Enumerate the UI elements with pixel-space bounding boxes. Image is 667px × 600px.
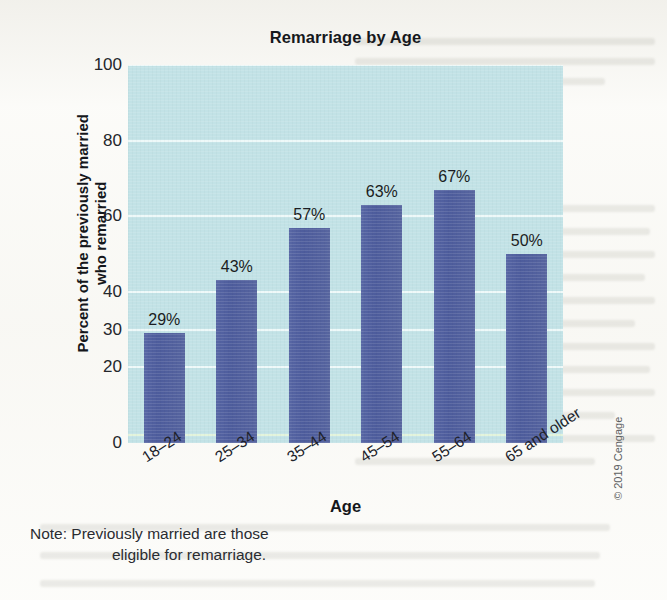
- bar-value-label: 43%: [207, 258, 267, 276]
- bar-value-label: 50%: [497, 232, 557, 250]
- chart-note-line-2: eligible for remarriage.: [30, 545, 330, 566]
- bar-value-labels: 29%43%57%63%67%50%: [128, 65, 563, 443]
- chart-note-line-1: Note: Previously married are those: [30, 524, 330, 545]
- x-axis-tick-labels: 18–2425–3435–4445–5455–6465 and older: [128, 447, 563, 502]
- bar-value-label: 67%: [424, 168, 484, 186]
- bar-chart-figure: Remarriage by Age Percent of the previou…: [0, 0, 667, 600]
- y-axis-tick-label: 0: [76, 434, 122, 451]
- y-axis-tick-label: 20: [76, 358, 122, 375]
- y-axis-tick-label: 100: [76, 56, 122, 73]
- y-axis-tick-label: 80: [76, 132, 122, 149]
- chart-note: Note: Previously married are those eligi…: [30, 524, 330, 566]
- x-axis-title: Age: [128, 497, 563, 516]
- chart-title: Remarriage by Age: [128, 28, 563, 47]
- bar-value-label: 63%: [352, 183, 412, 201]
- y-axis-tick-labels: 10080604030200: [72, 65, 122, 443]
- y-axis-tick-label: 30: [76, 321, 122, 338]
- y-axis-tick-label: 40: [76, 283, 122, 300]
- bar-value-label: 57%: [279, 206, 339, 224]
- bar-value-label: 29%: [134, 311, 194, 329]
- y-axis-tick-label: 60: [76, 207, 122, 224]
- copyright-credit: © 2019 Cengage: [612, 417, 624, 500]
